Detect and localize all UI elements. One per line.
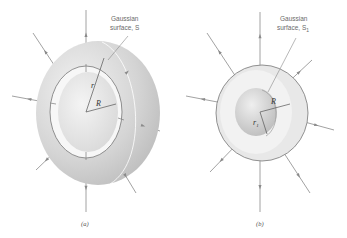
panel-b: R r1 Gaussian surface, S1 (b)	[186, 12, 334, 228]
field-line	[207, 33, 238, 80]
field-arrow-icon	[84, 33, 87, 37]
field-arrow-icon	[84, 186, 87, 190]
field-arrow-icon	[218, 50, 222, 55]
surface-label-a-line1: Gaussian	[111, 15, 139, 22]
inner-sphere-face	[58, 72, 118, 152]
field-arrow-icon	[258, 185, 261, 189]
surface-label-a-line2: surface, S	[110, 24, 140, 31]
field-arrow-icon	[296, 173, 300, 178]
radius-R-label-b: R	[270, 97, 276, 106]
surface-label-b-line2: surface, S1	[277, 24, 309, 33]
gaussian-surface-s1	[235, 88, 277, 136]
panel-a: r R Gaussian surface, S (a)	[12, 10, 160, 228]
caption-a: (a)	[81, 220, 89, 228]
caption-b: (b)	[256, 220, 264, 228]
field-arrow-icon	[44, 50, 48, 55]
field-arrow-icon	[314, 123, 319, 126]
field-line	[282, 150, 310, 193]
radius-R-label: R	[95, 99, 101, 108]
surface-label-b-line1: Gaussian	[280, 15, 308, 22]
gauss-law-figure: r R Gaussian surface, S (a) R r1 Gaussia	[0, 0, 347, 238]
field-arrow-icon	[258, 34, 261, 38]
